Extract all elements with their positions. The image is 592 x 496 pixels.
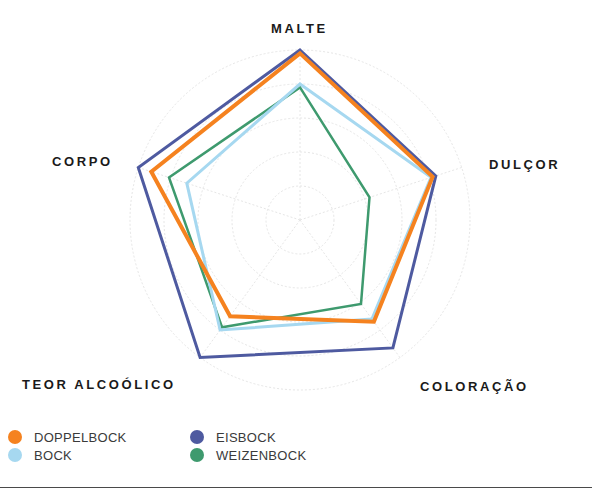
legend-item-weizenbock[interactable]: WEIZENBOCK bbox=[190, 446, 306, 464]
legend-item-bock[interactable]: BOCK bbox=[8, 446, 72, 464]
legend-dot-icon bbox=[190, 448, 204, 462]
legend-item-doppelbock[interactable]: DOPPELBOCK bbox=[8, 428, 127, 446]
radar-chart: MALTE DULÇOR COLORAÇÃO TEOR ALCOÓLICO CO… bbox=[0, 0, 592, 496]
legend-dot-icon bbox=[8, 448, 22, 462]
legend-label: WEIZENBOCK bbox=[216, 448, 306, 463]
axis-label-teor-alcoolico: TEOR ALCOÓLICO bbox=[22, 378, 176, 391]
legend-label: BOCK bbox=[34, 448, 72, 463]
bottom-divider bbox=[0, 487, 592, 488]
axis-label-malte: MALTE bbox=[271, 22, 328, 35]
grid-spoke bbox=[300, 167, 462, 220]
radar-plot-area bbox=[0, 0, 592, 496]
axis-label-coloracao: COLORAÇÃO bbox=[420, 380, 529, 393]
legend-label: EISBOCK bbox=[216, 430, 276, 445]
legend-dot-icon bbox=[8, 430, 22, 444]
radar-grid bbox=[130, 50, 470, 390]
axis-label-corpo: CORPO bbox=[52, 155, 113, 168]
series-bock[interactable] bbox=[187, 84, 431, 330]
legend: DOPPELBOCK BOCK EISBOCK WEIZENBOCK bbox=[6, 428, 406, 468]
legend-item-eisbock[interactable]: EISBOCK bbox=[190, 428, 276, 446]
legend-label: DOPPELBOCK bbox=[34, 430, 127, 445]
axis-label-dulcor: DULÇOR bbox=[489, 158, 560, 171]
legend-dot-icon bbox=[190, 430, 204, 444]
